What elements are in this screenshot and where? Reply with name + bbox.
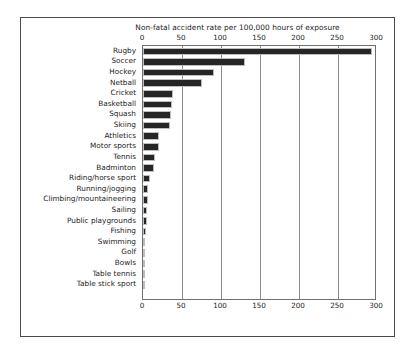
category-label: Running/jogging <box>21 183 139 194</box>
category-label: Athletics <box>21 130 139 141</box>
bar-row <box>143 78 375 89</box>
bar-row <box>143 173 375 184</box>
category-label: Basketball <box>21 98 139 109</box>
bar-row <box>143 46 375 57</box>
x-tick-label: 150 <box>252 33 266 42</box>
category-label: Cricket <box>21 87 139 98</box>
bar <box>143 270 145 278</box>
bar <box>143 196 148 204</box>
bar <box>143 207 147 215</box>
category-label: Climbing/mountaineering <box>21 194 139 205</box>
bar <box>143 90 173 98</box>
chart-figure: Non-fatal accident rate per 100,000 hour… <box>20 17 395 337</box>
x-tick-label: 250 <box>330 301 344 310</box>
bar-row <box>143 67 375 78</box>
category-label: Riding/horse sport <box>21 172 139 183</box>
x-tick-label: 150 <box>252 301 266 310</box>
category-label: Hockey <box>21 66 139 77</box>
chart-title: Non-fatal accident rate per 100,000 hour… <box>21 23 394 32</box>
bar <box>143 48 372 56</box>
y-axis-category-labels: RugbySoccerHockeyNetballCricketBasketbal… <box>21 45 139 300</box>
bar <box>143 79 202 87</box>
x-tick-label: 200 <box>291 301 305 310</box>
category-label: Netball <box>21 77 139 88</box>
bar <box>143 58 245 66</box>
bar <box>143 249 145 257</box>
x-tick-label: 250 <box>330 33 344 42</box>
category-label: Motor sports <box>21 140 139 151</box>
x-tick-label: 100 <box>213 33 227 42</box>
x-tick-label: 300 <box>369 301 383 310</box>
bar-row <box>143 216 375 227</box>
bar-row <box>143 279 375 290</box>
bar-row <box>143 88 375 99</box>
bar-row <box>143 152 375 163</box>
category-label: Sailing <box>21 204 139 215</box>
bar-row <box>143 163 375 174</box>
bar-row <box>143 248 375 259</box>
bar-row <box>143 141 375 152</box>
bar <box>143 185 148 193</box>
category-label: Table tennis <box>21 268 139 279</box>
category-label: Fishing <box>21 225 139 236</box>
bar <box>143 143 159 151</box>
x-tick-label: 50 <box>176 301 185 310</box>
x-tick-label: 0 <box>140 33 145 42</box>
plot-area <box>142 45 376 300</box>
bar <box>143 175 150 183</box>
bar-series <box>143 46 375 299</box>
x-tick-label: 100 <box>213 301 227 310</box>
category-label: Public playgrounds <box>21 215 139 226</box>
category-label: Rugby <box>21 45 139 56</box>
category-label: Tennis <box>21 151 139 162</box>
x-axis-ticks-bottom: 050100150200250300 <box>142 301 376 311</box>
bar-row <box>143 120 375 131</box>
bar <box>143 217 147 225</box>
bar <box>143 111 171 119</box>
bar <box>143 132 159 140</box>
bar <box>143 69 214 77</box>
category-label: Badminton <box>21 162 139 173</box>
bar-row <box>143 269 375 280</box>
x-tick-label: 300 <box>369 33 383 42</box>
category-label: Golf <box>21 247 139 258</box>
bar-row <box>143 184 375 195</box>
bar-row <box>143 131 375 142</box>
bar <box>143 164 154 172</box>
category-label: Table stick sport <box>21 278 139 289</box>
bar-row <box>143 237 375 248</box>
bar <box>143 122 170 130</box>
bar <box>143 101 172 109</box>
bar <box>143 260 145 268</box>
bar-row <box>143 57 375 68</box>
x-axis-ticks-top: 050100150200250300 <box>142 33 376 43</box>
x-tick-label: 50 <box>176 33 185 42</box>
bar-row <box>143 205 375 216</box>
category-label: Skiing <box>21 119 139 130</box>
bar <box>143 228 146 236</box>
bar-row <box>143 258 375 269</box>
bar-row <box>143 226 375 237</box>
bar-row <box>143 195 375 206</box>
bar-row <box>143 110 375 121</box>
category-label: Squash <box>21 109 139 120</box>
category-label: Swimming <box>21 236 139 247</box>
category-label: Bowls <box>21 257 139 268</box>
bar-row <box>143 99 375 110</box>
bar <box>143 238 145 246</box>
bar <box>143 281 145 289</box>
bar <box>143 154 155 162</box>
x-tick-label: 200 <box>291 33 305 42</box>
category-label: Soccer <box>21 56 139 67</box>
x-tick-label: 0 <box>140 301 145 310</box>
